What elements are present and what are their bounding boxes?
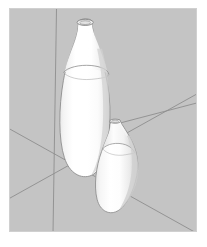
small-vase-rim-inner — [112, 120, 119, 122]
3d-viewport-scene[interactable] — [10, 9, 196, 231]
viewport-frame — [9, 8, 197, 232]
screenshot-root: Two ceramic vases on ground plane — [0, 0, 207, 247]
large-vase-rim-inner — [80, 21, 91, 25]
